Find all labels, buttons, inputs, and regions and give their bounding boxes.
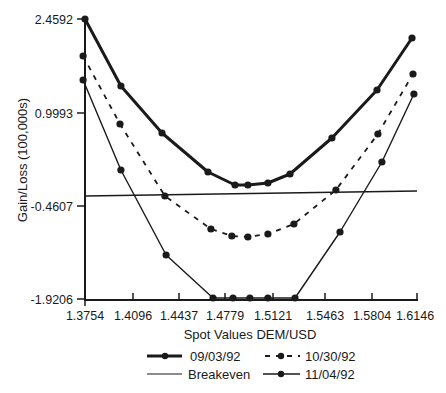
y-tick: -1.9206 (31, 293, 85, 307)
x-tick-label: 1.4096 (114, 309, 152, 323)
data-point-marker (408, 34, 415, 41)
data-point-marker (158, 129, 165, 136)
data-point-marker (336, 228, 343, 235)
data-point-marker (264, 230, 271, 237)
x-tick: 1.5463 (306, 293, 344, 323)
x-tick-label: 1.6146 (396, 309, 434, 323)
legend-item-1030: 10/30/92 (265, 349, 356, 364)
x-tick: 1.6146 (396, 293, 434, 323)
legend-label: 11/04/92 (305, 367, 355, 382)
x-tick-label: 1.4437 (160, 309, 198, 323)
legend-item-0903: 09/03/92 (147, 349, 241, 364)
legend-label: 10/30/92 (305, 349, 356, 364)
y-axis-title: Gain/Loss (100,000s) (15, 98, 30, 222)
series-09-03-92 (81, 15, 415, 188)
data-point-marker (286, 170, 293, 177)
y-tick: 2.4592 (35, 13, 85, 27)
data-point-marker (291, 294, 298, 301)
data-point-marker (328, 134, 335, 141)
data-point-marker (244, 181, 251, 188)
series-layer (80, 15, 418, 301)
legend-item-breakeven: Breakeven (147, 367, 250, 382)
x-tick-label: 1.5463 (306, 309, 344, 323)
x-tick-label: 1.4779 (206, 309, 244, 323)
data-point-marker (161, 192, 168, 199)
legend-label: 09/03/92 (190, 349, 241, 364)
data-point-marker (290, 220, 297, 227)
x-tick: 1.5804 (353, 293, 391, 323)
data-point-marker (246, 294, 253, 301)
x-axis-title: Spot Values DEM/USD (184, 327, 317, 342)
data-point-marker (264, 179, 271, 186)
data-point-marker (116, 120, 123, 127)
legend-item-1104: 11/04/92 (263, 367, 355, 382)
legend: 09/03/92 10/30/92 Breakeven 11/04/92 (147, 349, 356, 382)
series-10-30-92 (80, 52, 417, 240)
data-point-marker (410, 90, 417, 97)
data-point-marker (378, 158, 385, 165)
data-point-marker (228, 232, 235, 239)
data-point-marker (374, 130, 381, 137)
gain-loss-chart: 2.4592 0.9993 -0.4607 -1.9206 1.3754 1.4… (0, 0, 446, 393)
data-point-marker (409, 70, 416, 77)
data-point-marker (80, 76, 87, 83)
x-tick-label: 1.3754 (66, 309, 104, 323)
x-tick-label: 1.5121 (254, 309, 292, 323)
x-tick: 1.4437 (160, 293, 198, 323)
data-point-marker (204, 168, 211, 175)
y-tick: -0.4607 (31, 200, 85, 214)
data-point-marker (163, 251, 170, 258)
legend-label: Breakeven (188, 367, 250, 382)
data-point-marker (80, 52, 87, 59)
data-point-marker (231, 181, 238, 188)
data-point-marker (244, 233, 251, 240)
y-tick-label: -0.4607 (31, 200, 73, 214)
y-tick-label: 0.9993 (35, 107, 73, 121)
series-11-04-92 (80, 76, 418, 301)
data-point-marker (117, 166, 124, 173)
data-point-marker (209, 294, 216, 301)
y-tick: 0.9993 (35, 107, 85, 121)
data-point-marker (117, 82, 124, 89)
y-tick-label: 2.4592 (35, 13, 73, 27)
data-point-marker (264, 294, 271, 301)
x-tick: 1.4096 (114, 293, 152, 323)
x-tick-label: 1.5804 (353, 309, 391, 323)
y-tick-group: 2.4592 0.9993 -0.4607 -1.9206 (31, 13, 85, 307)
data-point-marker (207, 225, 214, 232)
data-point-marker (332, 186, 339, 193)
data-point-marker (229, 294, 236, 301)
data-point-marker (81, 15, 88, 22)
data-point-marker (373, 86, 380, 93)
y-tick-label: -1.9206 (31, 293, 73, 307)
